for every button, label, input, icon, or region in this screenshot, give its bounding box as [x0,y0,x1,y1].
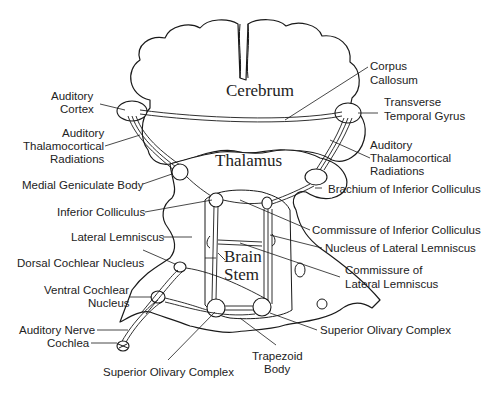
label-ventral-cochlear-nucleus-2: Nucleus [88,297,130,309]
label-thalamocortical-right-2: Thalamocortical [370,152,451,164]
auditory-pathway-diagram: Cerebrum Thalamus Brain Stem Auditory Co… [0,0,494,397]
label-commissure-inferior-colliculus: Commissure of Inferior Colliculus [312,224,481,236]
superior-olivary-right [253,298,271,316]
brain-stem-label-2: Stem [224,265,259,284]
label-trapezoid-body-2: Body [264,363,290,375]
dorsal-cochlear-nucleus [174,262,186,272]
thalamus-label: Thalamus [215,151,282,170]
label-medial-geniculate-body: Medial Geniculate Body [22,179,144,191]
label-thalamocortical-left-1: Auditory [62,127,104,139]
label-commissure-lateral-lemniscus-2: Lateral Lemniscus [345,278,439,290]
medial-geniculate-body-left [172,164,188,180]
label-nucleus-lateral-lemniscus: Nucleus of Lateral Lemniscus [325,242,476,254]
label-superior-olivary-complex-right: Superior Olivary Complex [320,324,451,336]
label-lateral-lemniscus: Lateral Lemniscus [71,231,165,243]
label-cochlea: Cochlea [47,337,90,349]
cerebrum-label: Cerebrum [226,81,294,100]
label-ventral-cochlear-nucleus-1: Ventral Cochlear [44,284,129,296]
label-brachium-inferior-colliculus: Brachium of Inferior Colliculus [328,183,481,195]
inferior-colliculus-right [262,197,272,209]
label-inferior-colliculus: Inferior Colliculus [57,206,145,218]
label-transverse-temporal-gyrus-2: Temporal Gyrus [384,110,465,122]
label-dorsal-cochlear-nucleus: Dorsal Cochlear Nucleus [17,257,144,269]
label-superior-olivary-complex-left: Superior Olivary Complex [103,366,234,378]
label-auditory-cortex-1: Auditory [51,90,93,102]
label-trapezoid-body-1: Trapezoid [252,350,303,362]
label-commissure-lateral-lemniscus-1: Commissure of [345,264,423,276]
label-auditory-nerve: Auditory Nerve [19,324,95,336]
label-thalamocortical-left-3: Radiations [50,153,105,165]
label-thalamocortical-left-2: Thalamocortical [23,140,104,152]
label-thalamocortical-right-1: Auditory [370,139,412,151]
label-auditory-cortex-2: Cortex [60,103,94,115]
label-corpus-callosum-2: Callosum [370,74,418,86]
brain-stem-label-1: Brain [224,247,262,266]
medial-geniculate-body-right [305,169,327,185]
label-transverse-temporal-gyrus-1: Transverse [384,96,441,108]
label-corpus-callosum-1: Corpus [370,60,407,72]
auditory-cortex-left [117,101,147,121]
label-thalamocortical-right-3: Radiations [370,165,425,177]
